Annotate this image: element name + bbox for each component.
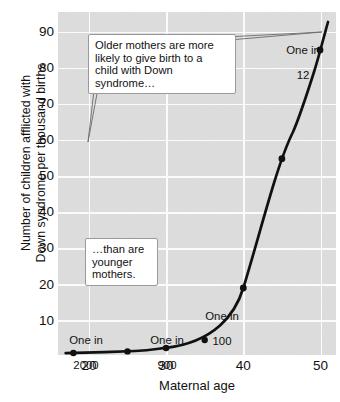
y-axis-title: Number of children afflicted with Down s… xyxy=(19,43,49,283)
callout-older-mothers: Older mothers are more likely to give bi… xyxy=(88,34,236,94)
y-tick-10: 10 xyxy=(2,314,54,328)
point-label-one-in-2000: One in 2000 xyxy=(56,322,116,384)
point-label-one-in-900: One in 900 xyxy=(139,322,195,384)
data-point-age-45 xyxy=(279,155,286,162)
point-label-one-in-2000-line-1: One in xyxy=(56,334,116,346)
point-label-one-in-100-line-1: One in xyxy=(194,310,250,322)
point-label-one-in-12-line-1: One in xyxy=(276,44,330,56)
y-tick-90: 90 xyxy=(2,25,54,39)
down-syndrome-incidence-chart: 90 80 70 60 50 40 30 20 10 Number of chi… xyxy=(0,0,340,402)
point-label-one-in-900-line-2: 900 xyxy=(139,359,195,371)
callout-younger-line-2: younger mothers. xyxy=(92,256,152,281)
point-label-one-in-100: One in 100 xyxy=(194,298,250,360)
point-label-one-in-12-line-2: 12 xyxy=(276,69,330,81)
callout-older-line-3: child with Down syndrome… xyxy=(95,64,230,89)
point-label-one-in-2000-line-2: 2000 xyxy=(56,359,116,371)
x-tick-50: 50 xyxy=(299,358,340,373)
callout-older-line-1: Older mothers are more xyxy=(95,39,230,52)
x-tick-40: 40 xyxy=(221,358,265,373)
point-label-one-in-12: One in 12 xyxy=(276,32,330,94)
callout-younger-line-1: …than are xyxy=(92,243,152,256)
data-point-age-40 xyxy=(240,285,247,292)
callout-younger-mothers: …than are younger mothers. xyxy=(85,238,158,286)
data-point-age-25 xyxy=(124,348,130,354)
y-axis-title-line-2: Down syndrome per thousand births xyxy=(34,43,49,283)
point-label-one-in-900-line-1: One in xyxy=(139,334,195,346)
callout-older-line-2: likely to give birth to a xyxy=(95,52,230,65)
y-axis-title-line-1: Number of children afflicted with xyxy=(19,43,34,283)
point-label-one-in-100-line-2: 100 xyxy=(194,335,250,347)
